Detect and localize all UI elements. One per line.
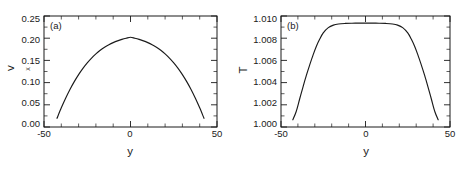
panel-a-label: (a)	[50, 20, 62, 31]
panel-b-xlabel: y	[363, 145, 369, 157]
panel-b-label: (b)	[287, 20, 299, 31]
panel-b-plot: 1.010 1.008 1.006 1.004 1.002 1.000 -50 …	[231, 0, 462, 170]
y-ticklabel: 1.008	[253, 34, 277, 45]
panel-a-ylabel-main: v	[4, 65, 16, 71]
x-ticklabel: 0	[127, 128, 132, 139]
panel-b-frame	[281, 16, 450, 127]
panel-a-x-ticklabels: -50 0 50	[37, 128, 222, 139]
x-ticklabel: 50	[212, 128, 223, 139]
panel-b-ylabel: T	[237, 66, 249, 73]
panel-b-minor-ticks	[281, 16, 450, 127]
panel-a-minor-ticks	[44, 16, 217, 127]
panel-b-major-ticks	[281, 16, 450, 127]
panel-a: 0.25 0.20 0.15 0.10 0.05 0.00 -50 0 50 y…	[0, 0, 231, 170]
panel-b: 1.010 1.008 1.006 1.004 1.002 1.000 -50 …	[231, 0, 462, 170]
panel-a-frame	[44, 16, 217, 127]
y-ticklabel: 1.002	[253, 97, 277, 108]
figure-container: 0.25 0.20 0.15 0.10 0.05 0.00 -50 0 50 y…	[0, 0, 462, 170]
y-ticklabel: 0.05	[22, 97, 41, 108]
x-ticklabel: 50	[445, 128, 456, 139]
y-ticklabel: 0.25	[22, 13, 41, 24]
y-ticklabel: 1.006	[253, 55, 277, 66]
y-ticklabel: 0.20	[22, 34, 41, 45]
x-ticklabel: -50	[274, 128, 288, 139]
panel-a-data-curve	[57, 37, 204, 118]
panel-a-xlabel: y	[127, 145, 133, 157]
panel-a-plot: 0.25 0.20 0.15 0.10 0.05 0.00 -50 0 50 y…	[0, 0, 231, 170]
panel-b-x-ticklabels: -50 0 50	[274, 128, 455, 139]
panel-a-ylabel-sub: x	[24, 67, 31, 71]
y-ticklabel: 1.004	[253, 76, 277, 87]
x-ticklabel: -50	[37, 128, 51, 139]
panel-a-major-ticks	[44, 16, 217, 127]
y-ticklabel: 1.010	[253, 13, 277, 24]
y-ticklabel: 0.15	[22, 55, 41, 66]
y-ticklabel: 0.10	[22, 76, 41, 87]
panel-b-data-curve	[293, 23, 438, 120]
panel-b-y-ticklabels: 1.010 1.008 1.006 1.004 1.002 1.000	[253, 13, 277, 129]
x-ticklabel: 0	[363, 128, 368, 139]
